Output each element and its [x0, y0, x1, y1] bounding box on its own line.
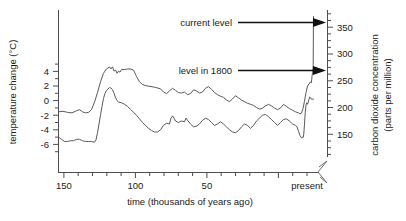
right-tick-label-250: 250: [337, 75, 353, 86]
right-axis-major-ticks: [328, 27, 334, 134]
x-tick-label-100: 100: [127, 180, 143, 191]
left-tick-label-neg6: -6: [41, 139, 49, 150]
left-axis-minor-ticks: [55, 64, 59, 152]
level-1800-arrow-head: [313, 66, 326, 75]
right-tick-label-300: 300: [337, 48, 353, 59]
left-tick-label-neg4: -4: [41, 124, 49, 135]
left-tick-label-2: 2: [44, 80, 49, 91]
left-tick-label-neg2: -2: [41, 110, 49, 121]
annotation-level-1800: level in 1800: [179, 65, 326, 76]
x-axis-title: time (thousands of years ago): [127, 196, 253, 207]
level-1800-label: level in 1800: [179, 65, 232, 76]
right-axis-minor-ticks: [328, 14, 332, 155]
data-curves: [59, 16, 314, 142]
left-axis-title: temperature change (°C): [7, 40, 18, 145]
right-tick-label-150: 150: [337, 129, 353, 140]
right-axis-title-line2: (parts per million): [382, 58, 393, 131]
x-tick-label-present: present: [291, 180, 323, 191]
left-tick-label-4: 4: [44, 66, 49, 77]
right-tick-label-200: 200: [337, 102, 353, 113]
right-tick-label-350: 350: [337, 22, 353, 33]
climate-chart-figure: 4 2 0 -2 -4 -6 temperature change (°C): [0, 0, 406, 221]
annotation-current-level: current level: [180, 17, 326, 28]
current-level-arrow-head: [313, 18, 326, 27]
x-tick-label-50: 50: [202, 180, 213, 191]
x-tick-label-150: 150: [56, 180, 72, 191]
left-tick-label-0: 0: [44, 95, 49, 106]
right-axis-title-line1: carbon dioxide concentration: [369, 34, 380, 155]
x-axis-minor-ticks: [78, 173, 307, 177]
current-level-label: current level: [180, 17, 232, 28]
chart-canvas: 4 2 0 -2 -4 -6 temperature change (°C): [0, 0, 406, 221]
x-axis-major-ticks: [64, 173, 279, 179]
